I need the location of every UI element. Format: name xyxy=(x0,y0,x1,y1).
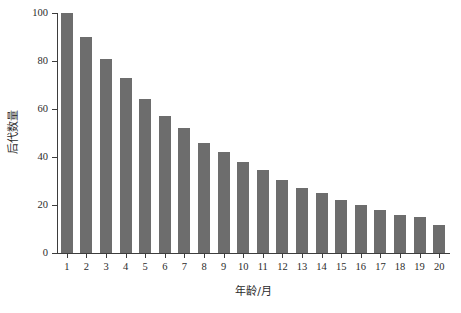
x-axis-tick-mark xyxy=(439,253,440,258)
x-axis-tick-mark xyxy=(106,253,107,258)
x-axis-tick-mark xyxy=(341,253,342,258)
x-axis-tick-mark xyxy=(145,253,146,258)
x-axis-tick-mark xyxy=(86,253,87,258)
bar xyxy=(237,162,249,253)
y-axis-tick-label: 20 xyxy=(38,197,49,213)
y-axis-tick-mark xyxy=(52,205,57,206)
y-axis-tick-mark xyxy=(52,253,57,254)
bar-chart-figure: 020406080100 123456789101112131415161718… xyxy=(0,0,461,313)
x-axis-title: 年龄/月 xyxy=(57,285,450,299)
y-axis-tick-mark xyxy=(52,61,57,62)
bar xyxy=(178,128,190,253)
x-axis-tick-mark xyxy=(67,253,68,258)
y-axis-tick-label: 60 xyxy=(38,101,49,117)
bar xyxy=(355,205,367,253)
y-axis-tick-mark xyxy=(52,109,57,110)
x-axis-tick-mark xyxy=(243,253,244,258)
bar xyxy=(296,188,308,253)
y-axis-tick-label: 80 xyxy=(38,53,49,69)
bar xyxy=(80,37,92,253)
bar xyxy=(276,180,288,253)
bar xyxy=(61,13,73,253)
x-axis-tick-mark xyxy=(380,253,381,258)
y-axis-title: 后代数量 xyxy=(7,92,21,172)
x-axis-tick-mark xyxy=(322,253,323,258)
x-axis-tick-mark xyxy=(204,253,205,258)
bar xyxy=(335,200,347,253)
y-axis-tick-mark xyxy=(52,13,57,14)
bar xyxy=(433,225,445,253)
bar xyxy=(159,116,171,253)
x-axis-tick-mark xyxy=(184,253,185,258)
x-axis-line xyxy=(57,253,450,254)
x-axis-tick-mark xyxy=(361,253,362,258)
x-axis-tick-mark xyxy=(420,253,421,258)
y-axis-tick-label: 0 xyxy=(43,245,48,261)
bar xyxy=(218,152,230,253)
y-axis-tick-mark xyxy=(52,157,57,158)
x-axis-tick-mark xyxy=(263,253,264,258)
y-axis-tick-label: 40 xyxy=(38,149,49,165)
bar xyxy=(100,59,112,253)
plot-area: 020406080100 123456789101112131415161718… xyxy=(57,13,449,253)
bar xyxy=(394,215,406,253)
bar xyxy=(120,78,132,253)
x-axis-tick-mark xyxy=(282,253,283,258)
x-axis-tick-mark xyxy=(302,253,303,258)
x-axis-tick-mark xyxy=(126,253,127,258)
bar xyxy=(374,210,386,253)
x-axis-tick-label: 20 xyxy=(427,260,451,274)
x-axis-tick-mark xyxy=(224,253,225,258)
bar xyxy=(257,170,269,253)
x-axis-tick-mark xyxy=(165,253,166,258)
bar xyxy=(139,99,151,253)
bar xyxy=(414,217,426,253)
bar xyxy=(198,143,210,253)
x-axis-tick-mark xyxy=(400,253,401,258)
y-axis-tick-label: 100 xyxy=(32,5,48,21)
bar xyxy=(316,193,328,253)
